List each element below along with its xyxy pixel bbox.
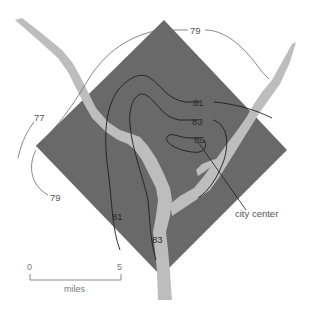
scale-end-label: 5 [117,262,122,272]
isotherm-label-83-right: 83 [192,116,203,127]
isotherm-label-77: 77 [34,112,45,123]
scale-unit-label: miles [64,284,86,294]
isotherm-label-85: 85 [194,134,205,145]
isotherm-label-81-right: 81 [193,97,204,108]
isotherm-map: 79 77 79 81 81 83 83 85 city center 0 5 … [0,0,326,315]
isotherm-label-83-bottom: 83 [152,234,163,245]
city-center-label: city center [235,208,278,219]
isotherm-label-81-bottom: 81 [112,211,123,222]
isotherm-label-79-top: 79 [190,25,201,36]
scale-start-label: 0 [27,262,32,272]
isotherm-label-79-left: 79 [50,192,61,203]
scale-bar: 0 5 miles [27,262,122,294]
